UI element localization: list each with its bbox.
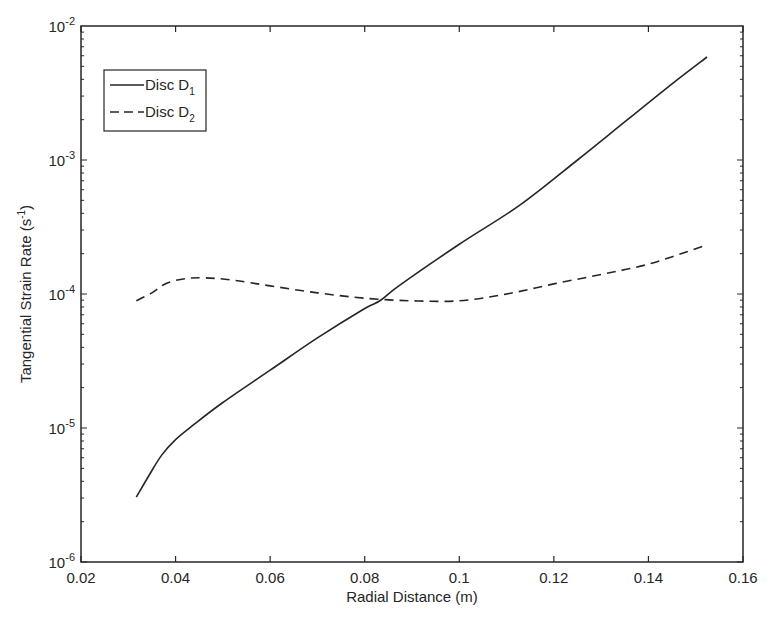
y-axis-label: Tangential Strain Rate (s-1) bbox=[16, 205, 34, 383]
x-tick-label: 0.06 bbox=[256, 569, 285, 586]
x-tick-label: 0.1 bbox=[449, 569, 470, 586]
legend: Disc D1 Disc D2 bbox=[104, 70, 206, 131]
x-tick-label: 0.12 bbox=[539, 569, 568, 586]
x-tick-label: 0.02 bbox=[66, 569, 95, 586]
chart-figure: 0.020.040.060.080.10.120.140.16 10-610-5… bbox=[0, 0, 772, 634]
x-tick-label: 0.14 bbox=[634, 569, 663, 586]
x-tick-label: 0.08 bbox=[350, 569, 379, 586]
x-axis-label: Radial Distance (m) bbox=[346, 588, 478, 605]
x-tick-label: 0.04 bbox=[161, 569, 190, 586]
x-tick-label: 0.16 bbox=[728, 569, 757, 586]
